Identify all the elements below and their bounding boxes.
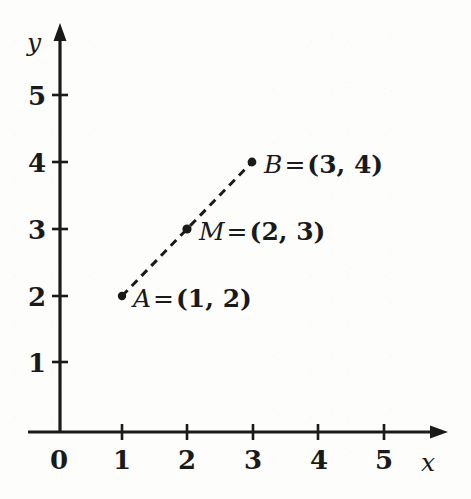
point-a-coords: (1, 2) xyxy=(176,284,252,313)
point-a-name: A xyxy=(133,284,151,313)
x-tick-label-3: 3 xyxy=(244,447,262,473)
origin-tick-label: 0 xyxy=(50,447,68,473)
point-m-equals: = xyxy=(225,217,250,246)
point-label-a: A=(1, 2) xyxy=(133,286,252,311)
x-axis-label: x xyxy=(421,450,435,475)
point-label-m: M=(2, 3) xyxy=(199,219,325,244)
point-marker-a xyxy=(118,292,126,300)
x-tick-label-4: 4 xyxy=(310,447,328,473)
point-m-name: M xyxy=(199,217,225,246)
y-tick-label-5: 5 xyxy=(28,83,46,109)
point-b-name: B xyxy=(264,150,282,179)
coordinate-plane-figure: y x 0 1 2 3 4 5 1 2 3 4 5 A=(1, 2) M=(2,… xyxy=(0,0,471,499)
x-axis-arrowhead xyxy=(430,426,448,439)
y-tick-label-4: 4 xyxy=(28,150,46,176)
y-tick-label-3: 3 xyxy=(28,217,46,243)
x-tick-label-1: 1 xyxy=(113,447,131,473)
point-b-equals: = xyxy=(282,150,307,179)
point-marker-b xyxy=(248,158,257,167)
x-tick-label-2: 2 xyxy=(178,447,196,473)
y-tick-label-2: 2 xyxy=(28,284,46,310)
plot-canvas xyxy=(0,0,471,499)
y-axis-label: y xyxy=(27,30,41,55)
y-axis-arrowhead xyxy=(54,23,67,41)
point-label-b: B=(3, 4) xyxy=(264,152,383,177)
point-m-coords: (2, 3) xyxy=(250,217,326,246)
point-marker-m xyxy=(182,224,191,233)
point-b-coords: (3, 4) xyxy=(307,150,383,179)
point-a-equals: = xyxy=(151,284,176,313)
y-tick-label-1: 1 xyxy=(28,350,46,376)
x-tick-label-5: 5 xyxy=(375,447,393,473)
